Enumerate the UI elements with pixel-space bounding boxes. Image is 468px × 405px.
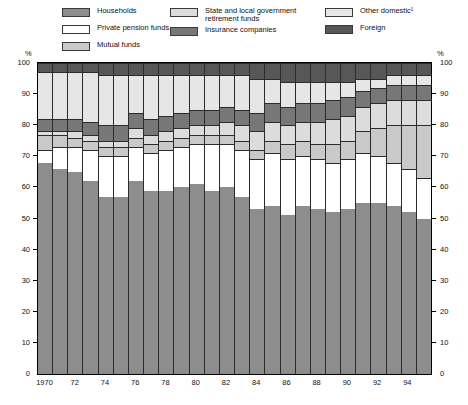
segment-private-pension-funds [129,147,143,181]
segment-foreign [159,63,173,75]
segment-households [356,203,370,374]
segment-mutual-funds [38,135,52,151]
y-tick-label-right-10: 10 [440,338,462,347]
segment-households [281,215,295,374]
bar-1990[interactable] [341,63,356,374]
segment-foreign [190,63,204,75]
y-tick-right-40 [432,249,436,250]
segment-foreign [53,63,67,72]
segment-private-pension-funds [38,150,52,162]
segment-foreign [114,63,128,75]
bar-1970[interactable] [38,63,53,374]
x-tick-label-76: 76 [120,378,150,387]
y-tick-label-left-80: 80 [8,120,30,129]
y-tick-right-10 [432,342,436,343]
stacked-bar-chart: % % 1009080706050403020100 1009080706050… [0,0,468,405]
bar-1973[interactable] [83,63,98,374]
segment-insurance-companies [68,119,82,131]
segment-private-pension-funds [235,150,249,197]
bar-1988[interactable] [311,63,326,374]
segment-mutual-funds [371,128,385,156]
segment-households [68,172,82,374]
bar-1985[interactable] [265,63,280,374]
bar-1977[interactable] [144,63,159,374]
segment-households [205,191,219,374]
segment-mutual-funds [99,147,113,156]
segment-state-and-local-government-retirement-funds [190,125,204,134]
segment-insurance-companies [387,85,401,101]
bar-1984[interactable] [250,63,265,374]
bar-1987[interactable] [296,63,311,374]
bar-1971[interactable] [53,63,68,374]
segment-insurance-companies [417,85,431,101]
segment-insurance-companies [174,113,188,129]
x-tick-label-88: 88 [302,378,332,387]
x-tick-label-94: 94 [392,378,422,387]
segment-state-and-local-government-retirement-funds [220,122,234,134]
segment-insurance-companies [296,103,310,122]
segment-insurance-companies [311,103,325,122]
segment-mutual-funds [341,141,355,160]
segment-state-and-local-government-retirement-funds [387,100,401,125]
x-tick-label-90: 90 [332,378,362,387]
segment-insurance-companies [341,97,355,116]
bar-1974[interactable] [99,63,114,374]
segment-insurance-companies [281,107,295,126]
y-tick-right-90 [432,93,436,94]
segment-mutual-funds [144,144,158,153]
segment-mutual-funds [220,135,234,144]
bar-1983[interactable] [235,63,250,374]
segment-state-and-local-government-retirement-funds [311,122,325,144]
bar-1986[interactable] [281,63,296,374]
segment-state-and-local-government-retirement-funds [341,116,355,141]
segment-foreign [38,63,52,72]
bar-1989[interactable] [326,63,341,374]
bar-1992[interactable] [371,63,386,374]
bar-1982[interactable] [220,63,235,374]
segment-private-pension-funds [387,163,401,207]
segment-insurance-companies [220,107,234,123]
x-tick-label-86: 86 [271,378,301,387]
x-tick-label-80: 80 [181,378,211,387]
segment-foreign [326,63,340,82]
bar-1981[interactable] [205,63,220,374]
segment-households [144,191,158,374]
segment-other-domestic [129,75,143,112]
segment-insurance-companies [144,119,158,135]
bar-1978[interactable] [159,63,174,374]
segment-other-domestic [53,72,67,119]
segment-foreign [99,63,113,75]
segment-insurance-companies [265,103,279,122]
segment-private-pension-funds [281,159,295,215]
bar-1976[interactable] [129,63,144,374]
bar-1993[interactable] [387,63,402,374]
segment-state-and-local-government-retirement-funds [144,135,158,144]
y-tick-label-left-50: 50 [8,214,30,223]
y-tick-label-right-90: 90 [440,89,462,98]
segment-mutual-funds [265,141,279,153]
bar-1975[interactable] [114,63,129,374]
y-tick-label-left-60: 60 [8,182,30,191]
segment-households [387,206,401,374]
segment-private-pension-funds [402,169,416,213]
bar-1972[interactable] [68,63,83,374]
segment-households [296,206,310,374]
bar-1991[interactable] [356,63,371,374]
y-tick-right-80 [432,124,436,125]
segment-other-domestic [174,75,188,112]
segment-state-and-local-government-retirement-funds [356,107,370,132]
bar-1994[interactable] [402,63,417,374]
segment-state-and-local-government-retirement-funds [53,131,67,134]
segment-mutual-funds [129,138,143,147]
bar-1980[interactable] [190,63,205,374]
segment-households [129,181,143,374]
segment-foreign [311,63,325,82]
segment-state-and-local-government-retirement-funds [129,128,143,137]
segment-households [99,197,113,374]
bar-1995[interactable] [417,63,431,374]
bar-1979[interactable] [174,63,189,374]
segment-foreign [296,63,310,82]
y-tick-label-right-50: 50 [440,214,462,223]
segment-private-pension-funds [53,147,67,169]
segment-mutual-funds [114,147,128,156]
